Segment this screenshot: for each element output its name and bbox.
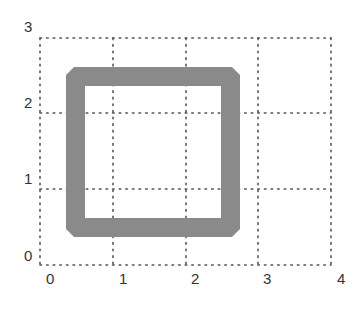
y-axis-labels: 3 2 1 0 xyxy=(24,18,32,264)
x-tick-1: 1 xyxy=(119,270,127,287)
square-frame-shape xyxy=(66,67,240,237)
grid-diagram: 3 2 1 0 0 1 2 3 4 xyxy=(0,0,364,315)
y-tick-0: 0 xyxy=(24,247,32,264)
y-tick-1: 1 xyxy=(24,170,32,187)
x-tick-0: 0 xyxy=(46,270,54,287)
y-tick-2: 2 xyxy=(24,94,32,111)
x-tick-2: 2 xyxy=(191,270,199,287)
y-tick-3: 3 xyxy=(24,18,32,35)
x-tick-3: 3 xyxy=(263,270,271,287)
x-axis-labels: 0 1 2 3 4 xyxy=(46,270,345,287)
x-tick-4: 4 xyxy=(337,270,345,287)
